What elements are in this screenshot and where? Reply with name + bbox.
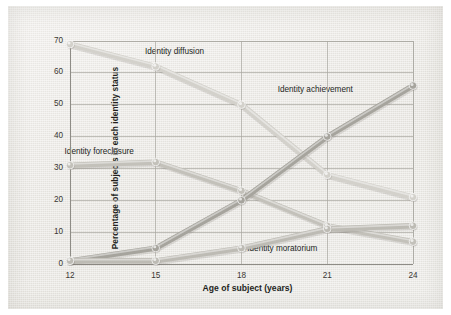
data-point-marker [409,193,417,201]
data-point-marker [323,133,331,141]
data-point-marker [152,244,160,252]
chart-paper: Percentage of subjects in each identity … [8,6,443,309]
data-point-marker [66,40,74,48]
line-chart-plot [8,6,443,309]
data-point-marker [152,257,160,265]
data-point-marker [66,257,74,265]
data-point-marker [323,225,331,233]
data-point-marker [238,101,246,109]
data-point-marker [66,161,74,169]
data-point-marker [238,196,246,204]
data-point-marker [152,158,160,166]
data-point-marker [409,238,417,246]
data-point-marker [409,222,417,230]
data-point-marker [238,244,246,252]
data-point-marker [323,171,331,179]
data-point-marker [152,63,160,71]
data-point-marker [238,187,246,195]
series-shadow-0 [71,46,414,199]
figure-container: Percentage of subjects in each identity … [0,0,451,315]
series-lines [70,43,414,262]
data-point-marker [409,82,417,90]
